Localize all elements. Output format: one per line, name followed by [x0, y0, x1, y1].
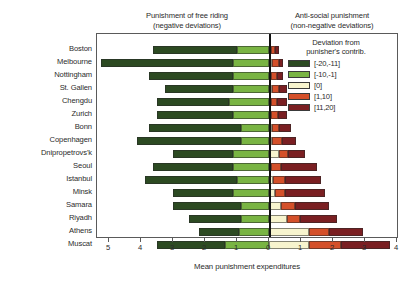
bar-row	[97, 137, 397, 145]
bar-segment	[189, 215, 241, 223]
category-label-st-gallen: St. Gallen	[0, 83, 92, 92]
x-tick-mark	[364, 238, 365, 242]
bar-segment	[300, 215, 337, 223]
bar-segment	[269, 215, 287, 223]
x-tick-mark	[236, 238, 237, 242]
bar-segment	[237, 176, 269, 184]
bar-segment	[241, 215, 269, 223]
bar-segment	[229, 98, 269, 106]
bar-segment	[241, 202, 269, 210]
bar-segment	[281, 202, 295, 210]
bar-segment	[288, 150, 305, 158]
legend-swatch	[288, 93, 310, 100]
legend-entry: [1,10]	[288, 92, 398, 101]
bar-segment	[279, 150, 288, 158]
x-tick-mark	[396, 238, 397, 242]
bar-segment	[173, 189, 233, 197]
bar-segment	[287, 215, 300, 223]
x-tick-label: 2	[194, 243, 214, 252]
bar-segment	[173, 150, 233, 158]
x-tick-mark	[300, 238, 301, 242]
category-label-copenhagen: Copenhagen	[0, 135, 92, 144]
legend-label: [-20,-11]	[314, 59, 340, 68]
legend-entry: [0]	[288, 81, 398, 90]
bar-segment	[285, 176, 321, 184]
bar-segment	[233, 85, 269, 93]
bar-segment	[329, 228, 363, 236]
bar-segment	[237, 46, 269, 54]
legend-label: [11,20]	[314, 103, 335, 112]
zero-reference-line	[269, 34, 271, 237]
legend-entry: [-10,-1]	[288, 70, 398, 79]
bar-segment	[233, 163, 269, 171]
legend-title-line2: punisher's contrib.	[278, 47, 394, 56]
bar-segment	[153, 163, 233, 171]
x-tick-mark	[172, 238, 173, 242]
bar-segment	[273, 176, 285, 184]
bar-segment	[165, 85, 233, 93]
x-tick-label: 2	[322, 243, 342, 252]
bar-row	[97, 124, 397, 132]
right-panel-title: Anti-social punishment (non-negative dev…	[264, 11, 400, 30]
bar-row	[97, 215, 397, 223]
bar-row	[97, 189, 397, 197]
category-label-zurich: Zurich	[0, 109, 92, 118]
category-label-boston: Boston	[0, 44, 92, 53]
legend-swatch	[288, 71, 310, 78]
category-label-minsk: Minsk	[0, 187, 92, 196]
x-tick-label: 3	[354, 243, 374, 252]
bar-segment	[272, 124, 279, 132]
left-panel-title-line1: Punishment of free riding	[112, 11, 262, 21]
bar-segment	[272, 137, 282, 145]
bar-segment	[275, 189, 285, 197]
legend-entry: [11,20]	[288, 103, 398, 112]
bar-row	[97, 202, 397, 210]
bar-segment	[199, 228, 239, 236]
bar-segment	[149, 72, 233, 80]
bar-row	[97, 176, 397, 184]
left-panel-title: Punishment of free riding (negative devi…	[112, 11, 262, 30]
bar-segment	[281, 163, 317, 171]
x-tick-label: 4	[386, 243, 402, 252]
category-label-athens: Athens	[0, 226, 92, 235]
category-label-muscat: Muscat	[0, 239, 92, 248]
x-tick-label: 5	[98, 243, 118, 252]
x-tick-label: 1	[290, 243, 310, 252]
bar-segment	[173, 202, 241, 210]
chart-figure: Punishment of free riding (negative devi…	[0, 0, 402, 283]
x-tick-label: 4	[130, 243, 150, 252]
legend-label: [0]	[314, 81, 322, 90]
legend-entry: [-20,-11]	[288, 59, 398, 68]
category-label-melbourne: Melbourne	[0, 57, 92, 66]
bar-segment	[233, 59, 269, 67]
bar-segment	[233, 111, 269, 119]
bar-segment	[241, 124, 269, 132]
bar-segment	[295, 202, 329, 210]
bar-segment	[149, 124, 241, 132]
category-label-bonn: Bonn	[0, 122, 92, 131]
bar-segment	[282, 137, 296, 145]
x-tick-mark	[204, 238, 205, 242]
legend: Deviation from punisher's contrib. [-20,…	[278, 38, 398, 112]
bar-segment	[269, 228, 309, 236]
x-tick-mark	[108, 238, 109, 242]
legend-swatch	[288, 104, 310, 111]
bar-row	[97, 150, 397, 158]
category-label-riyadh: Riyadh	[0, 213, 92, 222]
x-tick-label: 1	[226, 243, 246, 252]
legend-label: [-10,-1]	[314, 70, 336, 79]
legend-swatch	[288, 82, 310, 89]
bar-segment	[241, 137, 269, 145]
legend-swatch	[288, 60, 310, 67]
category-label-seoul: Seoul	[0, 161, 92, 170]
bar-segment	[233, 189, 269, 197]
bar-segment	[137, 137, 241, 145]
legend-title-line1: Deviation from	[278, 38, 394, 47]
bar-row	[97, 163, 397, 171]
category-label-istanbul: Istanbul	[0, 174, 92, 183]
bar-segment	[285, 189, 325, 197]
bar-segment	[271, 111, 278, 119]
category-label-samara: Samara	[0, 200, 92, 209]
bar-segment	[239, 228, 269, 236]
x-axis-title: Mean punishment expenditures	[96, 262, 398, 271]
